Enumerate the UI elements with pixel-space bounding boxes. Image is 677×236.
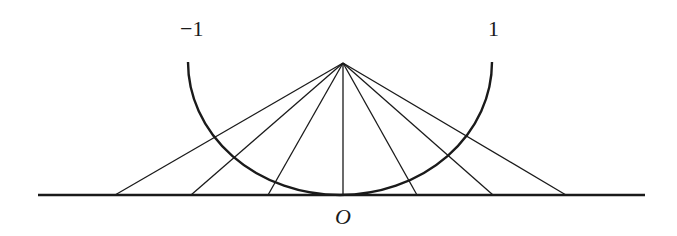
label-minus-one: −1 [180, 18, 203, 40]
projection-ray [343, 63, 417, 195]
projection-ray [268, 63, 343, 195]
projection-rays [115, 63, 566, 195]
projection-ray [343, 63, 566, 195]
projection-diagram [0, 0, 677, 236]
label-origin: O [335, 206, 351, 228]
label-one: 1 [488, 18, 499, 40]
semicircle-arc [188, 62, 492, 195]
projection-ray [115, 63, 343, 195]
projection-ray [191, 63, 343, 195]
